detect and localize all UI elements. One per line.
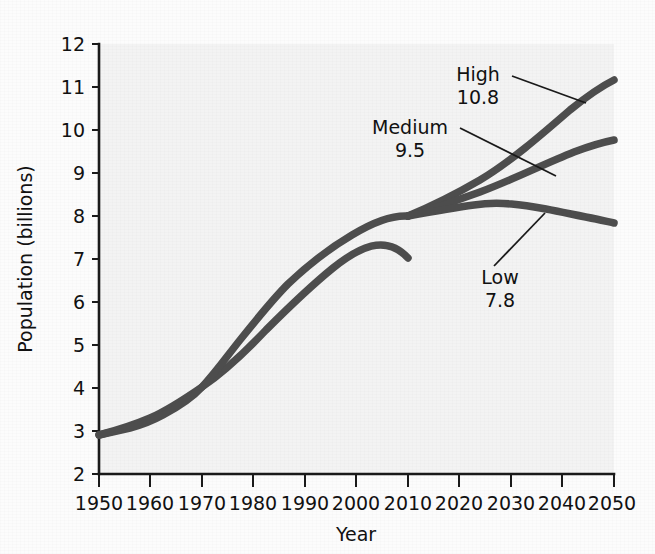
x-tick-label-2040: 2040 [538, 492, 586, 514]
y-tick-label-4: 4 [73, 377, 85, 399]
x-axis-tick-labels: 1950 1960 1970 1980 1990 2000 2010 2020 … [75, 492, 636, 514]
y-tick-label-3: 3 [73, 420, 85, 442]
annotation-low-name: Low [481, 266, 518, 288]
x-tick-label-1980: 1980 [229, 492, 277, 514]
y-tick-label-11: 11 [61, 76, 85, 98]
x-tick-label-1960: 1960 [126, 492, 174, 514]
y-tick-label-10: 10 [61, 119, 85, 141]
annotation-high-name: High [456, 63, 500, 85]
y-axis-tick-labels: 12 11 10 9 8 7 6 5 4 3 2 [61, 33, 85, 485]
y-tick-label-7: 7 [73, 248, 85, 270]
x-tick-label-2000: 2000 [332, 492, 380, 514]
y-tick-label-2: 2 [73, 463, 85, 485]
x-tick-label-2020: 2020 [435, 492, 483, 514]
annotation-high-value: 10.8 [457, 86, 499, 108]
y-tick-label-8: 8 [73, 205, 85, 227]
annotation-low: Low 7.8 [481, 213, 545, 311]
annotation-high: High 10.8 [456, 63, 586, 108]
x-tick-label-2050: 2050 [588, 492, 636, 514]
y-axis-title: Population (billions) [14, 165, 36, 352]
x-tick-label-2010: 2010 [384, 492, 432, 514]
annotation-high-leader [512, 76, 586, 103]
y-tick-label-6: 6 [73, 291, 85, 313]
x-tick-label-1950: 1950 [75, 492, 123, 514]
annotation-medium-value: 9.5 [395, 139, 425, 161]
y-tick-label-9: 9 [73, 162, 85, 184]
annotation-medium-name: Medium [372, 116, 448, 138]
population-projection-chart: 12 11 10 9 8 7 6 5 4 3 2 1950 [0, 0, 655, 554]
x-tick-label-2030: 2030 [487, 492, 535, 514]
x-axis-title: Year [335, 523, 376, 545]
y-tick-label-12: 12 [61, 33, 85, 55]
x-tick-label-1990: 1990 [281, 492, 329, 514]
annotation-low-leader [494, 213, 545, 266]
x-tick-label-1970: 1970 [178, 492, 226, 514]
annotation-low-value: 7.8 [485, 289, 515, 311]
series-trunk-historical [99, 245, 408, 435]
chart-page: 12 11 10 9 8 7 6 5 4 3 2 1950 [0, 0, 655, 554]
series-group [99, 80, 614, 435]
x-axis-ticks [99, 474, 614, 487]
y-tick-label-5: 5 [73, 334, 85, 356]
